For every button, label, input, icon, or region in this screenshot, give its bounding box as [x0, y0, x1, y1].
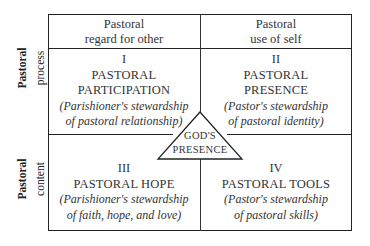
- column-header-regard-for-other: Pastoral regard for other: [48, 17, 200, 47]
- quadrant-description: (Pastor's stewardship: [200, 192, 352, 208]
- row-label-content-line2: content: [34, 153, 46, 205]
- quadrant-title: PASTORAL: [200, 68, 352, 84]
- column-header-line1: Pastoral: [48, 17, 200, 32]
- quadrant-description: (Parishioner's stewardship: [48, 192, 200, 208]
- column-header-line2: regard for other: [48, 32, 200, 47]
- row-label-process-line2: process: [34, 42, 46, 94]
- quadrant-pastoral-hope: III PASTORAL HOPE (Parishioner's steward…: [48, 161, 200, 223]
- row-label-content-line1: Pastoral: [16, 153, 28, 205]
- column-header-use-of-self: Pastoral use of self: [200, 17, 352, 47]
- quadrant-numeral: I: [48, 52, 200, 68]
- row-label-process-line1: Pastoral: [16, 42, 28, 94]
- quadrant-description: of pastoral skills): [200, 208, 352, 224]
- quadrant-title: PASTORAL TOOLS: [200, 177, 352, 193]
- quadrant-description: of faith, hope, and love): [48, 208, 200, 224]
- quadrant-title: PRESENCE: [200, 83, 352, 99]
- quadrant-numeral: II: [200, 52, 352, 68]
- center-label-line2: PRESENCE: [166, 143, 234, 157]
- quadrant-title: PASTORAL HOPE: [48, 177, 200, 193]
- column-header-line2: use of self: [200, 32, 352, 47]
- center-label-line1: GOD'S: [166, 129, 234, 143]
- column-header-line1: Pastoral: [200, 17, 352, 32]
- quadrant-pastoral-tools: IV PASTORAL TOOLS (Pastor's stewardship …: [200, 161, 352, 223]
- quadrant-title: PARTICIPATION: [48, 83, 200, 99]
- quadrant-title: PASTORAL: [48, 68, 200, 84]
